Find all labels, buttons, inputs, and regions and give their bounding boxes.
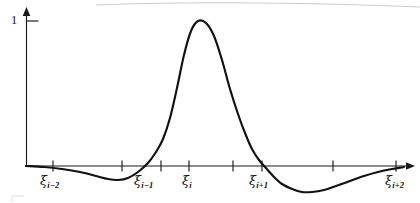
x-axis-arrow-icon	[406, 162, 415, 170]
x-axis-group	[27, 161, 416, 172]
xi-subscript: i−2	[47, 180, 59, 190]
y-axis-arrow-icon	[23, 7, 31, 16]
scan-artifact-top-line	[96, 3, 420, 7]
xi-subscript: i−1	[141, 180, 153, 190]
xi-subscript: i+1	[256, 180, 268, 190]
scan-artifact-corner-mark	[12, 196, 24, 202]
y-axis-unit-label: 1	[11, 14, 17, 27]
x-label-xi-i-plus-1: ξi+1	[249, 174, 268, 189]
plot-canvas	[0, 0, 420, 203]
xi-subscript: i	[189, 180, 192, 190]
x-label-xi-i-minus-1: ξi−1	[134, 174, 153, 189]
x-label-xi-i-plus-2: ξi+2	[385, 174, 404, 189]
y-axis-group	[23, 7, 39, 166]
x-label-xi-i: ξi	[182, 174, 192, 189]
xi-subscript: i+2	[392, 180, 404, 190]
figure-container: 1 ξi−2 ξi−1 ξi ξi+1 ξi+2	[0, 0, 420, 203]
x-label-xi-i-minus-2: ξi−2	[40, 174, 59, 189]
